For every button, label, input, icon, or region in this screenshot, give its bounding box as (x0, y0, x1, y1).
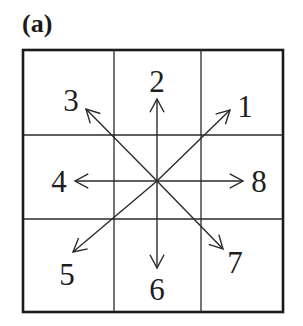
arrow-direction-2 (150, 99, 164, 181)
arrow-shaft-icon (73, 181, 157, 252)
direction-label-6: 6 (149, 272, 165, 307)
arrow-shaft-icon (157, 181, 223, 249)
direction-label-4: 4 (51, 164, 67, 199)
direction-label-8: 8 (251, 164, 267, 199)
direction-label-2: 2 (149, 64, 165, 99)
arrow-direction-8 (157, 174, 243, 188)
arrow-direction-5 (73, 181, 157, 252)
arrow-direction-4 (75, 174, 157, 188)
direction-arrows (73, 99, 243, 268)
direction-label-7: 7 (227, 245, 243, 280)
direction-label-5: 5 (59, 257, 75, 292)
arrow-direction-6 (150, 181, 164, 268)
arrow-direction-3 (86, 109, 157, 181)
arrow-direction-1 (157, 110, 230, 181)
arrow-shaft-icon (86, 109, 157, 181)
arrow-shaft-icon (157, 110, 230, 181)
direction-label-3: 3 (63, 83, 79, 118)
direction-label-1: 1 (237, 89, 253, 124)
direction-grid-diagram: 12345678 (0, 0, 303, 326)
arrow-direction-7 (157, 181, 223, 249)
